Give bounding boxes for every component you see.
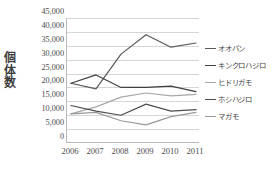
line-chart: 個体数 05,00010,00015,00020,00025,00030,000… <box>0 0 280 176</box>
legend: オオバンキンクロハジロヒドリガモホシハジロマガモ <box>205 40 280 125</box>
y-tick-label: 5,000 <box>18 119 64 127</box>
y-axis-tick-labels: 05,00010,00015,00020,00025,00030,00035,0… <box>18 12 64 144</box>
legend-item[interactable]: マガモ <box>205 108 280 125</box>
y-tick-label: 40,000 <box>18 22 64 30</box>
y-tick-label: 10,000 <box>18 105 64 113</box>
y-tick-label: 15,000 <box>18 91 64 99</box>
legend-item[interactable]: ホシハジロ <box>205 91 280 108</box>
x-tick-label: 2006 <box>61 146 78 156</box>
series-line <box>71 112 196 125</box>
y-axis-title: 個体数 <box>2 52 18 90</box>
x-tick-label: 2007 <box>86 146 103 156</box>
legend-line-icon <box>205 116 216 118</box>
legend-label: ヒドリガモ <box>218 79 252 87</box>
series-line <box>71 35 196 89</box>
y-tick-label: 45,000 <box>18 8 64 16</box>
legend-label: オオバン <box>218 45 245 53</box>
y-tick-label: 35,000 <box>18 36 64 44</box>
legend-item[interactable]: ヒドリガモ <box>205 74 280 91</box>
series-lines <box>67 18 200 143</box>
x-tick-label: 2010 <box>161 146 178 156</box>
legend-line-icon <box>205 48 216 50</box>
y-tick-label: 20,000 <box>18 77 64 85</box>
x-tick-label: 2011 <box>187 146 204 156</box>
legend-item[interactable]: オオバン <box>205 40 280 57</box>
x-axis-tick-labels: 200620072008200920102011 <box>66 146 199 162</box>
legend-line-icon <box>205 99 216 101</box>
series-line <box>71 75 196 92</box>
x-tick-label: 2008 <box>111 146 128 156</box>
legend-item[interactable]: キンクロハジロ <box>205 57 280 74</box>
legend-label: マガモ <box>218 113 238 121</box>
plot-area <box>66 18 199 143</box>
y-tick-label: 30,000 <box>18 50 64 58</box>
series-line <box>71 104 196 115</box>
legend-line-icon <box>205 82 216 84</box>
x-tick-label: 2009 <box>136 146 153 156</box>
y-tick-label: 25,000 <box>18 63 64 71</box>
legend-line-icon <box>205 65 216 67</box>
legend-label: キンクロハジロ <box>218 62 266 70</box>
legend-label: ホシハジロ <box>218 96 252 104</box>
y-tick-label: 0 <box>18 133 64 141</box>
